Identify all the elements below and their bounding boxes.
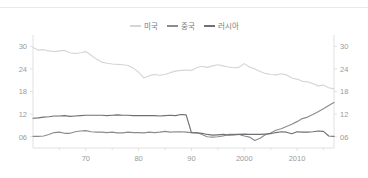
y-axis-tick-label-right: 24	[340, 65, 348, 74]
series-line-china	[33, 102, 334, 140]
chart-plot-area: 0606121218182424303070809020002010	[0, 0, 368, 178]
x-axis-tick-label: 80	[134, 154, 142, 163]
x-axis-tick-label: 90	[187, 154, 195, 163]
tick-label-layer: 0606121218182424303070809020002010	[19, 42, 349, 163]
y-axis-tick-label-left: 18	[19, 87, 27, 96]
y-axis-tick-label-right: 12	[340, 110, 348, 119]
x-axis-tick-label: 2010	[289, 154, 306, 163]
x-axis-tick-label: 70	[82, 154, 90, 163]
y-axis-tick-label-right: 18	[340, 87, 348, 96]
y-axis-tick-label-right: 06	[340, 133, 348, 142]
series-line-usa	[33, 47, 334, 88]
y-axis-tick-label-left: 12	[19, 110, 27, 119]
chart-figure: 미국 중국 러시아 060612121818242430307080902000…	[0, 0, 368, 178]
y-axis-tick-label-left: 06	[19, 133, 27, 142]
y-axis-tick-label-left: 24	[19, 65, 27, 74]
y-axis-tick-label-right: 30	[340, 42, 348, 51]
x-axis-tick-label: 2000	[236, 154, 253, 163]
y-axis-tick-label-left: 30	[19, 42, 27, 51]
series-layer	[33, 47, 334, 140]
